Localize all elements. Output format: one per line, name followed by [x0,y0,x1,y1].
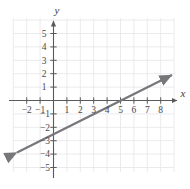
x-tick-label: 2 [78,105,83,115]
x-tick-label: 7 [145,105,150,115]
y-tick-label: −3 [40,136,50,146]
y-axis-label: y [54,4,60,16]
y-tick-label: −2 [40,123,50,133]
graph-canvas: y x −2 −1 1 2 3 4 5 6 7 8 5 4 3 2 1 −1 −… [0,0,190,189]
x-tick-label: 3 [91,105,96,115]
x-tick-label: 5 [118,105,123,115]
x-tick-label: 6 [132,105,137,115]
grid-lines [13,18,174,172]
coordinate-plane-figure: y x −2 −1 1 2 3 4 5 6 7 8 5 4 3 2 1 −1 −… [0,0,190,189]
y-tick-label: −1 [40,109,50,119]
y-tick-label: 5 [42,29,47,39]
y-tick-label: 2 [42,69,47,79]
y-tick-label: 3 [42,56,47,66]
y-tick-label: −5 [40,163,50,173]
y-tick-label: 1 [42,82,47,92]
x-tick-label: −2 [22,105,32,115]
x-tick-label: 1 [65,105,70,115]
y-tick-label: −4 [40,149,50,159]
y-tick-label: 4 [42,42,47,52]
x-tick-label: 8 [158,105,163,115]
x-axis-label: x [180,87,186,99]
x-tick-label: 4 [105,105,110,115]
